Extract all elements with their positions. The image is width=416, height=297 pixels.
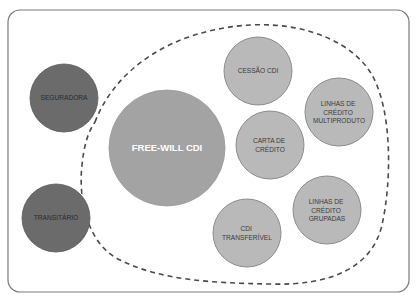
node-cdi-transferivel[interactable]: CDI TRANSFERÍVEL [213, 199, 281, 267]
node-transitario-label: TRANSITÁRIO [34, 213, 78, 221]
node-carta-de-credito[interactable]: CARTA DE CRÉDITO [236, 111, 304, 179]
node-free-will-cdi-label: FREE-WILL CDI [132, 142, 203, 153]
node-seguradora-label: SEGURADORA [41, 94, 88, 101]
diagram-canvas: SEGURADORA TRANSITÁRIO FREE-WILL CDI CES… [0, 0, 416, 297]
node-linhas-credito-grupadas[interactable]: LINHAS DE CRÉDITO GRUPADAS [293, 176, 361, 244]
node-transitario[interactable]: TRANSITÁRIO [22, 184, 90, 252]
node-cessao-cdi[interactable]: CESSÃO CDI [224, 37, 292, 105]
node-carta-de-credito-label: CARTA DE CRÉDITO [253, 137, 287, 153]
node-linhas-credito-multiproduto[interactable]: LINHAS DE CRÉDITO MULTIPRODUTO [305, 78, 373, 146]
node-seguradora[interactable]: SEGURADORA [30, 64, 98, 132]
node-linhas-credito-grupadas-label: LINHAS DE CRÉDITO GRUPADAS [309, 198, 346, 222]
node-cessao-cdi-label: CESSÃO CDI [238, 66, 279, 74]
node-free-will-cdi[interactable]: FREE-WILL CDI [109, 90, 225, 206]
